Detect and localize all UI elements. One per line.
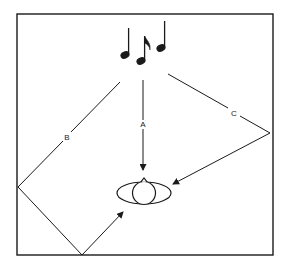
path-b-label: B bbox=[64, 133, 69, 142]
sound-path-diagram: A B C bbox=[0, 0, 285, 267]
path-a: A bbox=[140, 80, 146, 170]
path-b: B bbox=[18, 82, 123, 255]
path-c-label: C bbox=[231, 109, 237, 118]
path-c: C bbox=[168, 74, 270, 184]
head-top-view-icon bbox=[117, 178, 171, 205]
path-a-label: A bbox=[140, 120, 146, 129]
music-notes-icon bbox=[120, 21, 166, 65]
